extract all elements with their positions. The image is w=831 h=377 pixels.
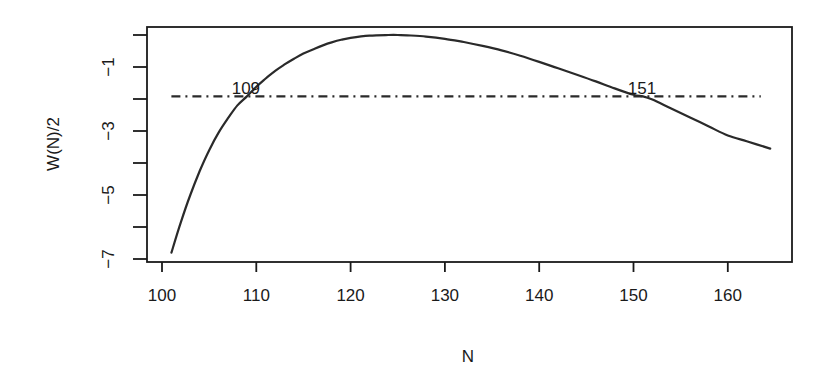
x-tick-label: 110 <box>243 286 270 305</box>
annotation-label: 151 <box>628 79 656 98</box>
y-axis: −1−3−5−7 <box>99 35 147 269</box>
y-axis-title: W(N)/2 <box>44 117 63 171</box>
x-axis-title: N <box>462 347 474 366</box>
y-tick-label: −7 <box>99 249 118 268</box>
x-tick-label: 130 <box>431 286 459 305</box>
series-layer <box>171 35 770 253</box>
curve-wn-half <box>171 35 770 253</box>
x-tick-label: 120 <box>336 286 364 305</box>
annotation-label: 109 <box>232 79 260 98</box>
x-tick-label: 100 <box>148 286 176 305</box>
x-axis: 100110120130140150160 <box>148 262 742 305</box>
y-tick-label: −3 <box>99 121 118 140</box>
x-tick-label: 160 <box>714 286 742 305</box>
plot-frame <box>147 27 792 262</box>
x-tick-label: 140 <box>525 286 553 305</box>
y-tick-label: −5 <box>99 185 118 204</box>
chart: 100110120130140150160 −1−3−5−7 109151 N … <box>0 0 831 377</box>
x-tick-label: 150 <box>619 286 647 305</box>
y-tick-label: −1 <box>99 57 118 76</box>
